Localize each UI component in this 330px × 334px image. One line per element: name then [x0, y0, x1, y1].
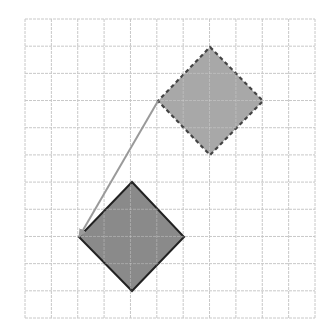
translation-diagram — [0, 0, 330, 334]
coordinate-grid — [25, 19, 315, 318]
grid-overlay — [25, 19, 315, 318]
